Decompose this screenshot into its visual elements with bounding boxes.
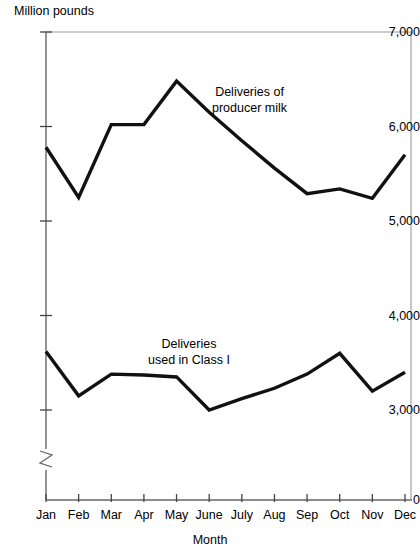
chart-container: Million pounds 3,0004,0005,0006,0007,000… xyxy=(0,0,420,554)
x-tick-label: Nov xyxy=(361,508,383,522)
x-tick-label: Jan xyxy=(36,508,56,522)
y-tick-label-zero: 0 xyxy=(376,493,420,507)
x-tick-label: Feb xyxy=(68,508,90,522)
y-tick-label: 7,000 xyxy=(376,25,420,39)
x-tick-label: Apr xyxy=(134,508,153,522)
x-tick-label: Mar xyxy=(101,508,123,522)
annotation-line-2: used in Class I xyxy=(148,352,230,368)
x-axis-title: Month xyxy=(0,533,420,547)
series-annotation-class-1: Deliveries used in Class I xyxy=(148,336,230,368)
y-tick-label: 6,000 xyxy=(376,120,420,134)
x-axis-ticks xyxy=(46,494,405,502)
x-tick-label: Dec xyxy=(394,508,416,522)
y-tick-label: 4,000 xyxy=(376,309,420,323)
x-tick-label: Oct xyxy=(330,508,349,522)
x-tick-label: Sep xyxy=(296,508,318,522)
annotation-line-2: producer milk xyxy=(212,100,287,116)
x-tick-label: Aug xyxy=(263,508,285,522)
y-tick-label: 3,000 xyxy=(376,403,420,417)
x-tick-label: June xyxy=(196,508,223,522)
annotation-line-1: Deliveries xyxy=(148,336,230,352)
x-tick-label: July xyxy=(231,508,253,522)
series-annotation-producer-milk: Deliveries of producer milk xyxy=(212,84,287,116)
plot-area xyxy=(0,0,420,554)
annotation-line-1: Deliveries of xyxy=(212,84,287,100)
y-tick-label: 5,000 xyxy=(376,214,420,228)
x-tick-label: May xyxy=(165,508,189,522)
